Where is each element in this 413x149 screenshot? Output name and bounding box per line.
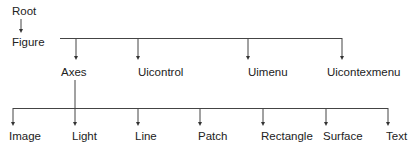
node-image: Image [9,130,41,143]
node-patch: Patch [198,130,227,143]
node-figure: Figure [12,36,45,49]
node-uicontrol: Uicontrol [138,66,183,79]
node-uicontexmenu: Uicontexmenu [327,66,401,79]
node-text: Text [386,130,407,143]
node-light: Light [72,130,97,143]
node-uimenu: Uimenu [248,66,288,79]
node-axes: Axes [61,66,87,79]
node-surface: Surface [323,130,363,143]
node-line: Line [135,130,157,143]
node-rectangle: Rectangle [261,130,313,143]
node-root: Root [12,5,36,18]
